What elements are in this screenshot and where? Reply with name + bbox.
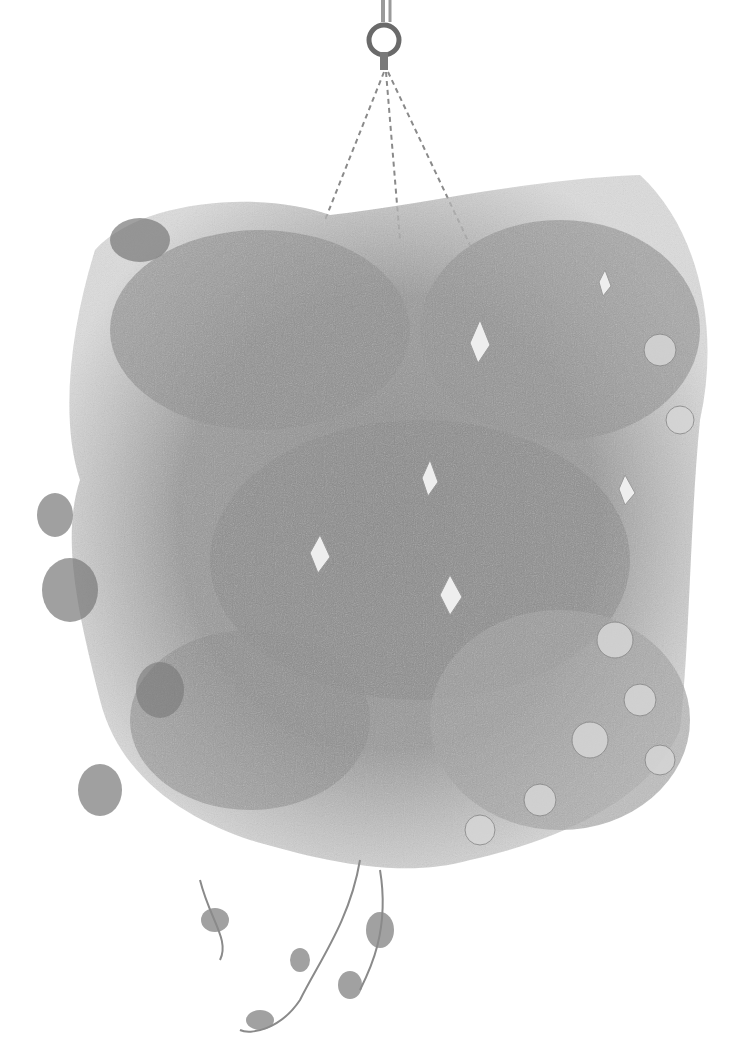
hanging-basket-drawing xyxy=(0,0,754,1055)
foliage-mass xyxy=(69,175,707,868)
hanging-ring xyxy=(369,0,399,70)
trailing-ivy xyxy=(200,860,383,1032)
ivy-leaves xyxy=(201,908,394,1030)
